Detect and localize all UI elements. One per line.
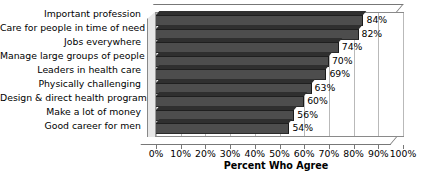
- x-axis-tick-labels: 0%10%20%30%40%50%60%70%80%90%100%: [140, 148, 424, 160]
- gridline: [403, 13, 404, 136]
- x-tick-label: 100%: [390, 148, 417, 159]
- category-axis: Important professionCare for people in t…: [0, 7, 144, 133]
- plot-bottom-face: [140, 137, 397, 145]
- bar-value-label: 69%: [326, 67, 350, 80]
- plot-left-face: [147, 12, 155, 144]
- x-tick-label: 90%: [368, 148, 389, 159]
- x-tick-label: 10%: [170, 148, 191, 159]
- bar-value-label: 60%: [304, 94, 328, 107]
- x-tick-label: 50%: [269, 148, 290, 159]
- category-label: Care for people in time of need: [0, 21, 144, 35]
- bar-value-label: 56%: [294, 108, 318, 121]
- bar-value-label: 84%: [363, 13, 387, 26]
- x-tick-label: 40%: [244, 148, 265, 159]
- category-label: Leaders in health care: [0, 63, 144, 77]
- plot-area: 84%82%74%70%69%63%60%56%54%: [147, 4, 405, 147]
- category-label: Jobs everywhere: [0, 35, 144, 49]
- category-label: Make a lot of money: [0, 105, 144, 119]
- x-tick-label: 80%: [343, 148, 364, 159]
- x-tick-label: 20%: [195, 148, 216, 159]
- bars-layer: 84%82%74%70%69%63%60%56%54%: [156, 13, 403, 136]
- bar-value-label: 63%: [312, 81, 336, 94]
- x-tick-label: 60%: [294, 148, 315, 159]
- bar: [156, 123, 289, 134]
- category-label: Manage large groups of people: [0, 49, 144, 63]
- category-label: Important profession: [0, 7, 144, 21]
- bar-value-label: 82%: [359, 27, 383, 40]
- x-tick-label: 70%: [319, 148, 340, 159]
- category-label: Design & direct health programs: [0, 91, 144, 105]
- bar-value-label: 74%: [339, 40, 363, 53]
- bar-row: 54%: [156, 123, 403, 134]
- bar-value-label: 54%: [289, 121, 313, 134]
- plot-front-wall: 84%82%74%70%69%63%60%56%54%: [155, 12, 404, 137]
- x-tick-label: 30%: [220, 148, 241, 159]
- x-tick-label: 0%: [149, 148, 164, 159]
- x-axis-title: Percent Who Agree: [147, 160, 405, 171]
- category-label: Physically challenging: [0, 77, 144, 91]
- bar-value-label: 70%: [329, 54, 353, 67]
- bar-chart: Important professionCare for people in t…: [0, 0, 424, 174]
- category-label: Good career for men: [0, 119, 144, 133]
